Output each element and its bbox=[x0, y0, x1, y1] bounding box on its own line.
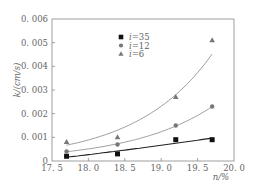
legend-triangle-icon bbox=[118, 51, 123, 56]
x-tick-label: 18. 0 bbox=[78, 163, 100, 173]
y-axis-title: k/(cm/s) bbox=[12, 63, 22, 98]
y-tick-label: 0. 002 bbox=[21, 109, 48, 119]
chart: 00. 0010. 0020. 0030. 0040. 0050. 006 17… bbox=[0, 0, 254, 184]
triangle-marker bbox=[64, 139, 70, 144]
circle-marker bbox=[210, 104, 214, 108]
square-marker bbox=[173, 137, 178, 142]
circle-marker bbox=[64, 149, 68, 153]
fit-curve-i-12 bbox=[67, 107, 213, 152]
y-tick-label: 0. 006 bbox=[21, 14, 48, 24]
triangle-marker bbox=[115, 134, 121, 139]
legend-square-icon bbox=[119, 35, 124, 40]
fit-curve-i-35 bbox=[67, 138, 213, 157]
y-tick-label: 0. 004 bbox=[21, 61, 48, 71]
legend-circle-icon bbox=[119, 43, 123, 47]
x-tick-label: 17. 5 bbox=[41, 163, 63, 173]
circle-marker bbox=[174, 123, 178, 127]
square-marker bbox=[210, 137, 215, 142]
y-tick-label: 0. 001 bbox=[21, 132, 48, 142]
fit-curves bbox=[67, 54, 213, 157]
y-tick-label: 0. 003 bbox=[21, 85, 48, 95]
triangle-marker bbox=[209, 37, 215, 42]
circle-marker bbox=[115, 142, 119, 146]
x-tick-label: 18. 5 bbox=[114, 163, 136, 173]
x-tick-label: 19. 5 bbox=[187, 163, 209, 173]
square-marker bbox=[115, 151, 120, 156]
fit-curve-i-6 bbox=[67, 54, 213, 145]
legend-label: i=6 bbox=[129, 49, 144, 59]
x-axis-title: n/% bbox=[213, 172, 229, 182]
x-tick-label: 19. 0 bbox=[150, 163, 172, 173]
y-tick-label: 0. 005 bbox=[21, 38, 48, 48]
x-axis: 17. 518. 018. 519. 019. 520. 0 bbox=[41, 158, 245, 173]
legend: i=35i=12i=6 bbox=[118, 32, 149, 59]
y-axis: 00. 0010. 0020. 0030. 0040. 0050. 006 bbox=[21, 14, 55, 166]
square-marker bbox=[64, 154, 69, 159]
